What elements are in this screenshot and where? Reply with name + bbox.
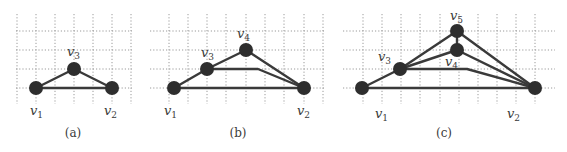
vertex-label: v3 [378, 49, 391, 66]
panel-c: v1v2v3v4v5(c) [343, 8, 555, 140]
vertex-dot [297, 81, 311, 95]
vertex-label: v3 [201, 45, 214, 62]
vertex-label-subscript: 4 [452, 61, 458, 71]
edge [457, 31, 535, 88]
vertex-label-subscript: 2 [514, 113, 520, 123]
vertex-label-subscript: 1 [171, 110, 177, 120]
graph-figure: v1v2v3(a) v1v2v3v4(b) v1v2v3v4v5(c) [0, 0, 567, 152]
vertex-dot [200, 62, 214, 76]
vertex-label-subscript: 3 [208, 52, 214, 62]
vertex-label-subscript: 3 [385, 56, 391, 66]
vertex-label-subscript: 3 [74, 51, 80, 61]
vertex-label-subscript: 2 [111, 110, 117, 120]
vertex-v5: v5 [450, 8, 464, 38]
vertex-label: v1 [375, 106, 388, 123]
vertex-label-subscript: 2 [304, 110, 310, 120]
vertex-v4: v4 [445, 43, 464, 71]
vertex-label: v3 [67, 44, 80, 61]
vertex-label: v2 [297, 103, 310, 120]
vertex-v3: v3 [200, 45, 214, 76]
vertex-label-subscript: 1 [382, 113, 388, 123]
vertex-label: v1 [30, 103, 43, 120]
vertex-dot [167, 81, 181, 95]
vertex-label-subscript: 1 [37, 110, 43, 120]
panel-b: v1v2v3v4(b) [150, 14, 324, 140]
vertex-label: v2 [507, 106, 520, 123]
vertex-dot [355, 81, 369, 95]
vertex-dot [67, 62, 81, 76]
panel-caption: (a) [65, 126, 82, 140]
vertex-label-subscript: 4 [244, 33, 250, 43]
vertex-label: v2 [104, 103, 117, 120]
vertex-v1: v1 [164, 81, 181, 120]
vertex-label: v5 [450, 8, 463, 25]
vertex-dot [239, 43, 253, 57]
vertex-label-subscript: 5 [457, 15, 463, 25]
vertex-v3: v3 [67, 44, 81, 76]
vertex-dot [528, 81, 542, 95]
vertex-dot [29, 81, 43, 95]
panel-caption: (c) [436, 126, 452, 140]
panel-caption: (b) [229, 126, 246, 140]
vertex-label: v1 [164, 103, 177, 120]
vertex-dot [393, 62, 407, 76]
vertex-label: v4 [237, 26, 250, 43]
vertex-dot [105, 81, 119, 95]
vertex-dot [450, 24, 464, 38]
panel-a: v1v2v3(a) [16, 14, 132, 140]
